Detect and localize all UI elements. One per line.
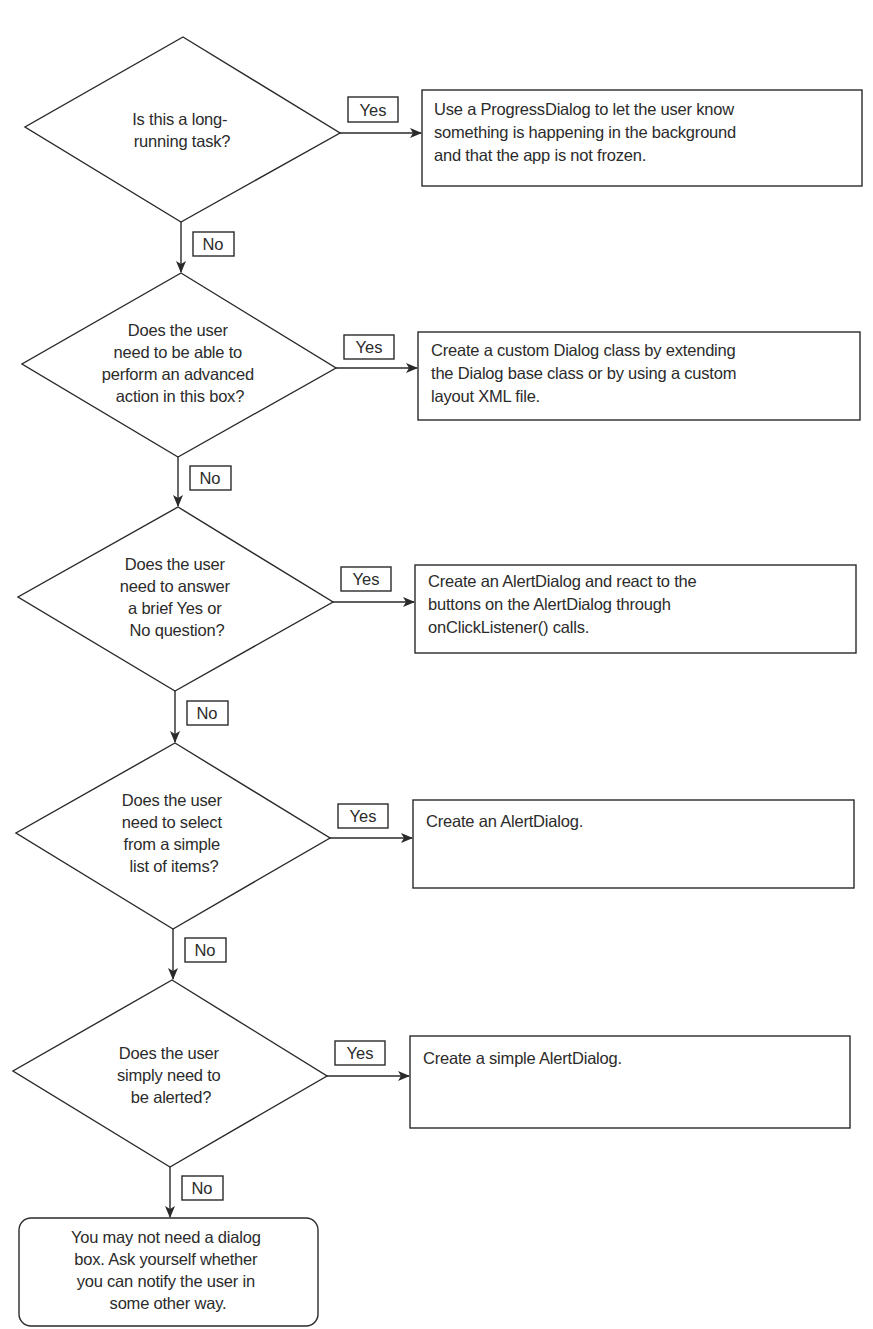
action-box-progress-dialog: Use a ProgressDialog to let the user kno… [422, 90, 862, 186]
action-box-alert-dialog-buttons: Create an AlertDialog and react to the b… [415, 565, 856, 653]
svg-text:Yes: Yes [347, 1044, 374, 1062]
decision-simply-alerted: Does the user simply need to be alerted? [13, 980, 327, 1167]
svg-text:No: No [194, 941, 215, 959]
no-label-2: No [190, 466, 231, 490]
svg-text:No: No [202, 235, 223, 253]
action-5-text: Create a simple AlertDialog. [423, 1049, 622, 1067]
flowchart: Is this a long- running task? Yes Use a … [0, 0, 873, 1329]
action-box-alert-dialog: Create an AlertDialog. [413, 800, 854, 888]
svg-text:No: No [196, 704, 217, 722]
terminal-no-dialog-needed: You may not need a dialog box. Ask yours… [19, 1218, 318, 1326]
decision-advanced-action: Does the user need to be able to perform… [22, 273, 336, 457]
no-label-5: No [182, 1176, 223, 1200]
svg-text:No: No [199, 469, 220, 487]
decision-diamond-1 [25, 37, 340, 222]
no-label-1: No [193, 232, 234, 256]
decision-yes-no-question: Does the user need to answer a brief Yes… [18, 507, 333, 691]
yes-label-2: Yes [344, 335, 394, 359]
action-4-text: Create an AlertDialog. [426, 812, 583, 830]
svg-text:Yes: Yes [350, 807, 377, 825]
svg-text:Yes: Yes [353, 570, 380, 588]
yes-label-3: Yes [341, 567, 391, 591]
action-box-simple-alert-dialog: Create a simple AlertDialog. [410, 1036, 850, 1128]
action-box-custom-dialog: Create a custom Dialog class by extendin… [418, 332, 860, 420]
svg-text:Yes: Yes [356, 338, 383, 356]
decision-long-running-task: Is this a long- running task? [25, 37, 340, 222]
yes-label-1: Yes [348, 97, 398, 122]
decision-select-list: Does the user need to select from a simp… [16, 743, 330, 929]
no-label-3: No [187, 701, 228, 725]
decision-5-text: Does the user simply need to be alerted? [117, 1044, 225, 1106]
no-label-4: No [185, 938, 226, 962]
yes-label-5: Yes [335, 1041, 385, 1065]
yes-label-4: Yes [338, 804, 388, 828]
svg-text:No: No [191, 1179, 212, 1197]
svg-text:Yes: Yes [360, 101, 387, 119]
